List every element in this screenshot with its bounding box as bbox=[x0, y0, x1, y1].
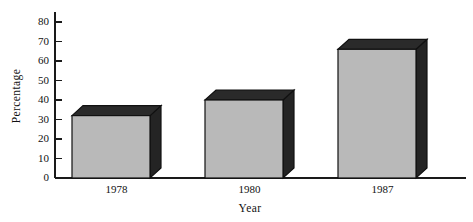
y-axis-title: Percentage bbox=[10, 69, 23, 123]
bar-top-face bbox=[72, 106, 161, 116]
bar-top-face bbox=[205, 90, 294, 100]
bar-front-face bbox=[338, 49, 416, 178]
y-axis-tick-label: 60 bbox=[38, 54, 50, 66]
bar-top-face bbox=[338, 39, 427, 49]
x-axis-tick-label: 1980 bbox=[239, 183, 262, 195]
x-axis-title: Year bbox=[239, 202, 262, 214]
bar-side-face bbox=[150, 106, 161, 178]
bar-front-face bbox=[205, 100, 283, 178]
y-axis-ticks bbox=[55, 22, 62, 178]
bar-1980 bbox=[205, 90, 294, 178]
y-axis-tick-label: 80 bbox=[38, 15, 50, 27]
x-axis-tick-label: 1978 bbox=[106, 183, 129, 195]
bar-front-face bbox=[72, 116, 150, 178]
bars-group bbox=[72, 39, 427, 178]
chart-canvas: 01020304050607080 197819801987 Year Perc… bbox=[0, 0, 473, 222]
bar-side-face bbox=[416, 39, 427, 178]
y-axis-tick-label: 40 bbox=[38, 93, 50, 105]
y-axis-tick-labels: 01020304050607080 bbox=[38, 15, 50, 183]
y-axis-tick-label: 30 bbox=[38, 113, 50, 125]
y-axis-tick-label: 20 bbox=[38, 132, 50, 144]
bar-1978 bbox=[72, 106, 161, 178]
y-axis-tick-label: 70 bbox=[38, 35, 50, 47]
bar-1987 bbox=[338, 39, 427, 178]
bar-chart-figure: 01020304050607080 197819801987 Year Perc… bbox=[0, 0, 473, 222]
x-axis-tick-label: 1987 bbox=[372, 183, 395, 195]
y-axis-tick-label: 50 bbox=[38, 74, 50, 86]
bar-side-face bbox=[283, 90, 294, 178]
y-axis-tick-label: 10 bbox=[38, 152, 50, 164]
y-axis-tick-label: 0 bbox=[44, 171, 50, 183]
x-axis-tick-labels: 197819801987 bbox=[106, 183, 395, 195]
